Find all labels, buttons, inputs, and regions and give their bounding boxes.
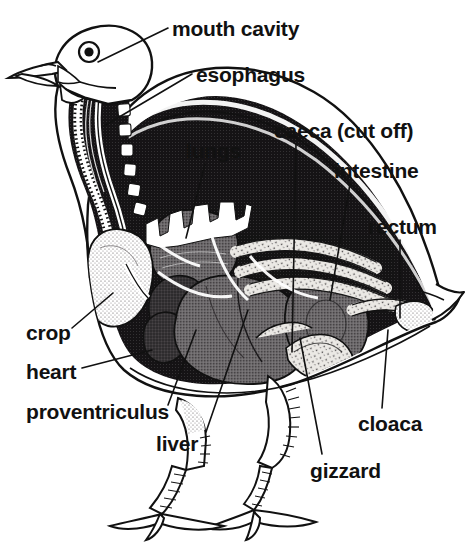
label-heart: heart: [26, 361, 76, 382]
label-caeca-cut-off: caeca (cut off): [274, 120, 413, 141]
eye: [79, 42, 99, 62]
bird-anatomy-figure: mouth cavity esophagus caeca (cut off) l…: [0, 0, 474, 548]
label-cloaca: cloaca: [358, 413, 422, 434]
label-rectum: rectum: [368, 216, 437, 237]
label-liver: liver: [156, 433, 198, 454]
label-esophagus: esophagus: [196, 64, 305, 85]
label-gizzard: gizzard: [310, 460, 381, 481]
label-intestine: intestine: [334, 160, 419, 181]
label-mouth-cavity: mouth cavity: [172, 18, 299, 39]
label-crop: crop: [26, 322, 71, 343]
head: [8, 26, 152, 104]
label-proventriculus: proventriculus: [26, 401, 169, 422]
label-lungs: lungs: [186, 140, 241, 161]
